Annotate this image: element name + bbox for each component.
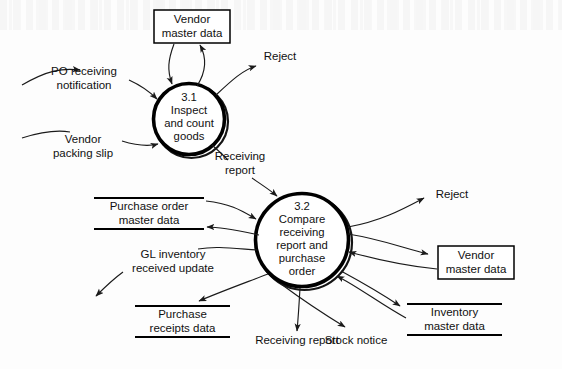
purchase-order-master-data-label: Purchase order master data	[94, 200, 204, 227]
flow-32-to-po-master	[207, 227, 259, 235]
vendor-master-data-top-label: Vendor master data	[154, 13, 230, 40]
dfd-canvas: Vendor master data 3.1 Inspect and count…	[0, 0, 562, 369]
vendor-master-data-right-label: Vendor master data	[438, 249, 514, 276]
flow-32-receiving-report-bottom	[297, 288, 300, 331]
flow-vendor-master-to-31	[169, 44, 174, 84]
flow-32-reject-right	[348, 198, 424, 227]
flow-vendor-master-right-to-32	[349, 252, 437, 269]
flow-label-po-receiving-notification: PO receiving notification	[35, 65, 133, 92]
flow-label-vendor-packing-slip: Vendor packing slip	[38, 133, 128, 160]
flow-label-stock-notice: Stock notice	[313, 334, 399, 348]
flow-label-gl-inventory-received-update: GL inventory received update	[121, 248, 225, 275]
flow-po-master-to-32	[206, 201, 256, 219]
flow-32-stock-notice	[281, 284, 345, 327]
flow-label-reject-top: Reject	[252, 50, 308, 64]
flow-label-reject-right: Reject	[424, 188, 480, 202]
purchase-receipts-data-label: Purchase receipts data	[135, 308, 230, 335]
inventory-master-data-label: Inventory master data	[407, 306, 502, 333]
process-3-1-label: 3.1 Inspect and count goods	[150, 91, 228, 143]
flow-inventory-master-to-32	[337, 276, 406, 318]
flow-gl-inventory-update-out	[96, 272, 123, 296]
flow-receiving-report-to-32	[252, 178, 277, 196]
flow-32-purchase-receipts	[199, 274, 268, 301]
flow-31-to-vendor-master	[197, 45, 205, 86]
flow-label-receiving-report-mid: Receiving report	[205, 150, 275, 177]
flow-32-to-vendor-master-right	[348, 234, 428, 254]
flow-32-to-inventory-master	[341, 271, 400, 306]
process-3-2-label: 3.2 Compare receiving report and purchas…	[258, 200, 346, 278]
